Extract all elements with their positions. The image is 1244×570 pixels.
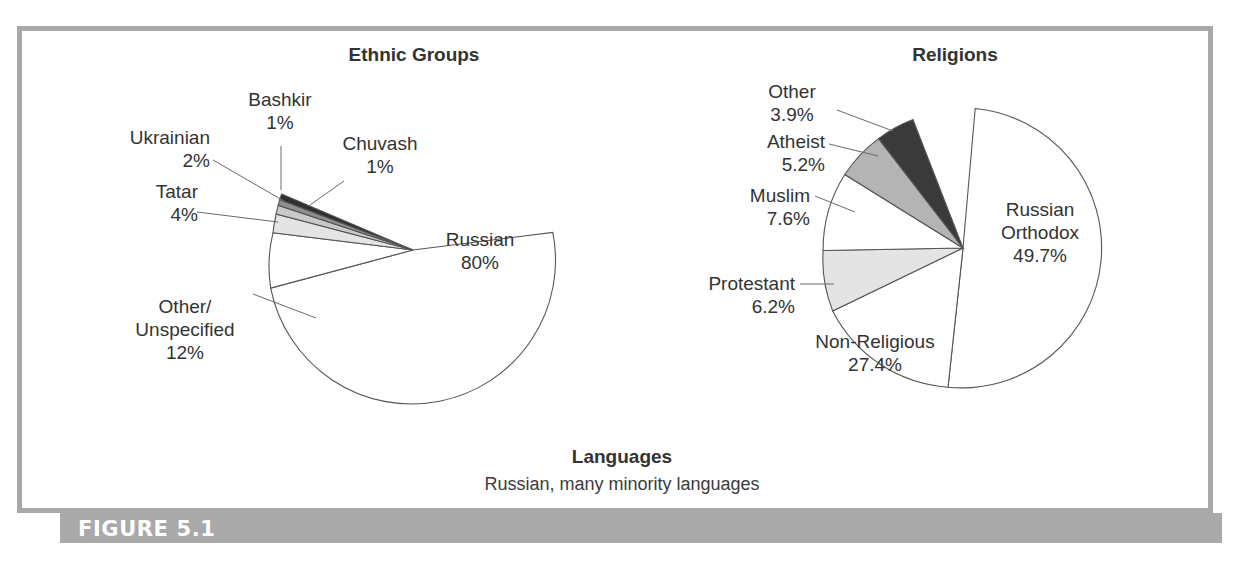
label-other-unspecified: Other/ Unspecified 12% [105, 295, 265, 364]
languages-block: Languages Russian, many minority languag… [0, 446, 1244, 495]
figure-number-label: FIGURE 5.1 [78, 517, 215, 541]
label-other: Other 3.9% [717, 80, 867, 126]
chart-title-ethnic-groups: Ethnic Groups [264, 44, 564, 66]
label-chuvash: Chuvash 1% [305, 132, 455, 178]
label-bashkir: Bashkir 1% [205, 88, 355, 134]
label-atheist: Atheist 5.2% [660, 130, 825, 176]
chart-title-religions: Religions [805, 44, 1105, 66]
label-ukrainian: Ukrainian 2% [30, 126, 210, 172]
languages-value: Russian, many minority languages [0, 474, 1244, 495]
figure-frame [17, 26, 1213, 513]
label-tatar: Tatar 4% [50, 180, 198, 226]
languages-title: Languages [0, 446, 1244, 468]
label-protestant: Protestant 6.2% [610, 272, 795, 318]
label-russian-orthodox: Russian Orthodox 49.7% [960, 198, 1120, 267]
label-muslim: Muslim 7.6% [640, 184, 810, 230]
figure-caption-bar: FIGURE 5.1 [60, 513, 1222, 543]
label-non-religious: Non-Religious 27.4% [775, 330, 975, 376]
label-russian: Russian 80% [400, 228, 560, 274]
